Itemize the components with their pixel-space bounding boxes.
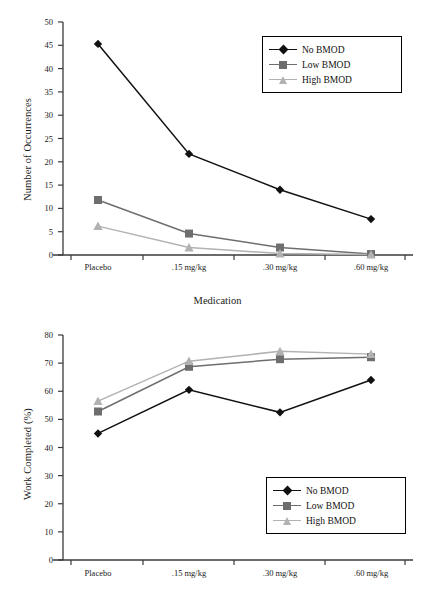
- x-tick-label: .60 mg/kg: [331, 262, 411, 272]
- y-tick-label: 10: [31, 203, 53, 213]
- work-completed-legend: No BMODLow BMODHigh BMOD: [266, 477, 406, 534]
- legend-square-icon: [269, 59, 297, 71]
- x-tick-label: .15 mg/kg: [149, 262, 229, 272]
- y-tick-label: 60: [31, 386, 53, 396]
- legend-item: No BMOD: [273, 483, 397, 498]
- work-completed-plot-area: [0, 318, 435, 605]
- data-point-marker: [94, 196, 102, 204]
- y-tick-label: 80: [31, 330, 53, 340]
- y-tick-label: 50: [31, 17, 53, 27]
- legend-label: Low BMOD: [306, 501, 354, 511]
- y-tick-label: 40: [31, 443, 53, 453]
- legend-label: No BMOD: [306, 486, 349, 496]
- y-tick-label: 50: [31, 414, 53, 424]
- y-tick-label: 30: [31, 110, 53, 120]
- y-tick-label: 25: [31, 134, 53, 144]
- y-tick-label: 15: [31, 180, 53, 190]
- occurrences-legend: No BMODLow BMODHigh BMOD: [262, 36, 402, 93]
- x-tick-label: Placebo: [58, 568, 138, 578]
- legend-label: No BMOD: [302, 45, 345, 55]
- legend-label: Low BMOD: [302, 60, 350, 70]
- data-point-marker: [93, 222, 102, 231]
- legend-item: High BMOD: [269, 72, 393, 87]
- data-point-marker: [367, 215, 375, 223]
- legend-item: Low BMOD: [273, 498, 397, 513]
- data-point-marker: [94, 408, 102, 416]
- y-tick-label: 45: [31, 40, 53, 50]
- data-point-marker: [276, 186, 284, 194]
- y-tick-label: 0: [31, 250, 53, 260]
- occurrences-x-axis-label: Medication: [0, 295, 435, 306]
- x-tick-label: .60 mg/kg: [331, 568, 411, 578]
- x-tick-label: .30 mg/kg: [240, 568, 320, 578]
- legend-item: Low BMOD: [269, 57, 393, 72]
- y-tick-label: 30: [31, 471, 53, 481]
- y-tick-label: 20: [31, 157, 53, 167]
- legend-diamond-icon: [269, 44, 297, 56]
- legend-item: High BMOD: [273, 513, 397, 528]
- data-point-marker: [94, 429, 102, 437]
- series-line: [98, 380, 371, 433]
- legend-label: High BMOD: [306, 516, 356, 526]
- data-point-marker: [93, 396, 102, 405]
- y-tick-label: 0: [31, 555, 53, 565]
- legend-item: No BMOD: [269, 42, 393, 57]
- data-point-marker: [185, 386, 193, 394]
- data-point-marker: [276, 355, 284, 363]
- x-tick-label: .30 mg/kg: [240, 262, 320, 272]
- work-completed-chart-panel: Work Completed (%) No BMODLow BMODHigh B…: [0, 318, 435, 605]
- data-point-marker: [276, 408, 284, 416]
- legend-square-icon: [273, 500, 301, 512]
- y-tick-label: 40: [31, 64, 53, 74]
- series-line: [98, 200, 371, 254]
- y-tick-label: 70: [31, 358, 53, 368]
- legend-label: High BMOD: [302, 75, 352, 85]
- x-tick-label: .15 mg/kg: [149, 568, 229, 578]
- y-tick-label: 35: [31, 87, 53, 97]
- series-line: [98, 357, 371, 411]
- y-tick-label: 5: [31, 227, 53, 237]
- y-tick-label: 10: [31, 527, 53, 537]
- legend-triangle-icon: [273, 515, 301, 527]
- legend-diamond-icon: [273, 485, 301, 497]
- data-point-marker: [185, 230, 193, 238]
- y-tick-label: 20: [31, 499, 53, 509]
- occurrences-chart-panel: Number of Occurrences Medication No BMOD…: [0, 0, 435, 318]
- data-point-marker: [367, 376, 375, 384]
- x-tick-label: Placebo: [58, 262, 138, 272]
- legend-triangle-icon: [269, 74, 297, 86]
